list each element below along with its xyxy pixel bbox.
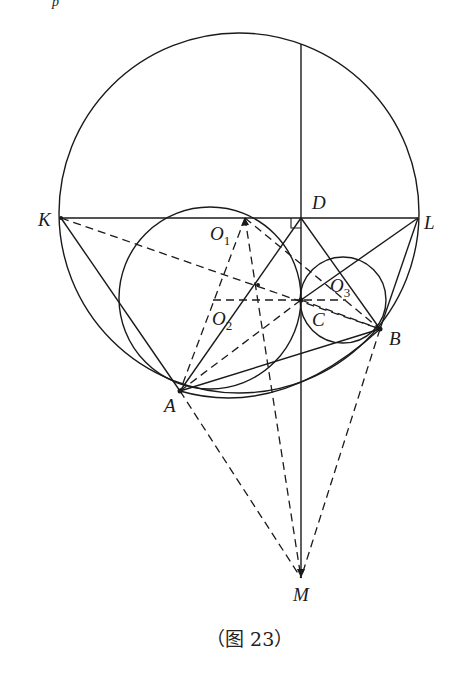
point-k bbox=[59, 216, 63, 220]
label-m: M bbox=[292, 584, 310, 605]
label-l: L bbox=[423, 212, 435, 233]
line-lb bbox=[380, 218, 418, 329]
point-intersection bbox=[256, 283, 260, 287]
top-text-fragment: p bbox=[51, 0, 59, 9]
dash-am bbox=[180, 391, 301, 578]
label-a: A bbox=[162, 395, 176, 416]
line-ab bbox=[180, 329, 380, 391]
label-c: C bbox=[312, 309, 325, 330]
point-a bbox=[178, 389, 183, 394]
point-c bbox=[299, 298, 304, 303]
line-lc bbox=[301, 218, 418, 300]
label-k: K bbox=[37, 209, 52, 230]
dash-ac bbox=[180, 300, 301, 391]
line-ad bbox=[180, 218, 301, 391]
figure-caption: （图 23） bbox=[206, 628, 293, 650]
label-b: B bbox=[389, 328, 401, 349]
dash-o1m bbox=[245, 218, 301, 578]
label-o2: O2 bbox=[212, 308, 232, 333]
dash-bm bbox=[301, 329, 380, 578]
line-ka bbox=[61, 218, 180, 391]
point-b bbox=[378, 327, 383, 332]
label-d: D bbox=[311, 192, 326, 213]
geometry-figure: p K L D O1 O2 O3 C B A M （图 23） bbox=[0, 0, 461, 681]
arrowhead-m bbox=[297, 569, 305, 578]
arrowhead-o1 bbox=[241, 218, 249, 226]
big-circle bbox=[59, 33, 419, 393]
label-o1: O1 bbox=[210, 223, 230, 248]
